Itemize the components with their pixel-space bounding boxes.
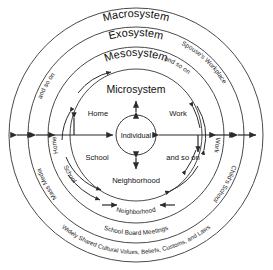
label-micro-home: Home <box>88 109 108 118</box>
label-exo-school-board-meetings: School Board Meetings <box>103 224 169 236</box>
ring-title-exosystem: Exosystem <box>107 26 165 42</box>
label-micro-neighborhood: Neighborhood <box>112 176 160 185</box>
label-meso-home: Home <box>50 136 59 155</box>
diagram-canvas: Macrosystem Exosystem Mesosystem Microsy… <box>0 0 273 270</box>
label-micro-school: School <box>85 153 109 162</box>
ecological-systems-diagram: Macrosystem Exosystem Mesosystem Microsy… <box>0 0 273 270</box>
curve-arrow-meso-lower-right <box>170 166 198 191</box>
label-meso-school: School <box>63 164 79 184</box>
label-meso-neighborhood: Neighborhood <box>116 206 157 216</box>
ring-title-mesosystem: Mesosystem <box>103 46 170 64</box>
label-exo-mass-media: Mass Media <box>35 167 58 202</box>
curve-arrow-meso-left <box>62 112 70 140</box>
label-micro-work: Work <box>169 109 187 118</box>
ring-title-macrosystem: Macrosystem <box>101 7 170 23</box>
label-meso-work: Work <box>213 137 222 154</box>
label-micro-and-so-on: and so on <box>166 153 199 162</box>
label-individual: Individual <box>121 131 152 140</box>
label-exo-spouses-workplace: Spouse's Workplace <box>181 39 229 85</box>
ring-title-microsystem: Microsystem <box>107 83 166 95</box>
